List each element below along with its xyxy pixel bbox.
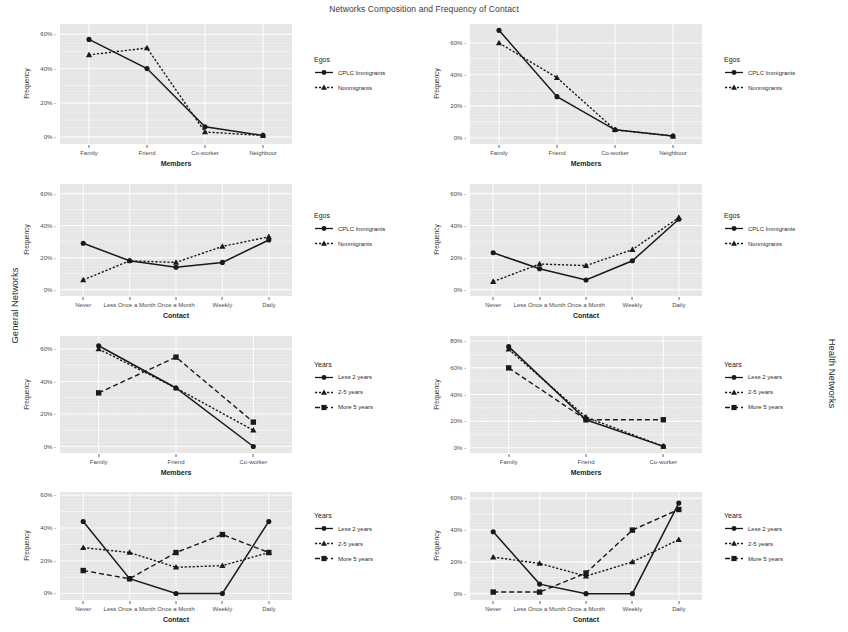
panel-p4: 0% -20% -40% -60% -NeverLess Once a Mont… xyxy=(424,176,834,326)
legend-item-label: 2-5 years xyxy=(748,541,773,547)
legend-item[interactable]: 2-5 years xyxy=(724,388,783,397)
x-tick-mark xyxy=(129,297,130,300)
plot-area-p7 xyxy=(60,492,292,600)
x-tick-label: Less Once a Month xyxy=(514,302,566,308)
y-axis-title: Frequency xyxy=(23,492,30,600)
plot-area-p6 xyxy=(470,336,702,453)
legend-item[interactable]: 2-5 years xyxy=(724,539,783,548)
data-point xyxy=(491,250,496,255)
legend-item-label: 2-5 years xyxy=(338,541,363,547)
legend-item-label: CPLC Immigrants xyxy=(338,70,385,76)
legend-title: Egos xyxy=(724,212,795,219)
legend-item[interactable]: CPLC Immigrants xyxy=(724,68,795,77)
panel-p3: 0% -20% -40% -60% -NeverLess Once a Mont… xyxy=(14,176,424,326)
circle-marker-icon xyxy=(314,68,334,77)
data-point xyxy=(81,241,86,246)
legend-item-label: Less 2 years xyxy=(338,526,372,532)
x-axis-title: Contact xyxy=(470,312,702,319)
legend-item[interactable]: Nonmigrants xyxy=(724,239,795,248)
x-tick-label: Once a Month xyxy=(157,302,195,308)
y-tick-label: 60% - xyxy=(424,495,466,501)
x-tick-label: Friend xyxy=(167,459,184,465)
legend-item[interactable]: Less 2 years xyxy=(724,373,783,382)
square-marker-icon xyxy=(724,403,744,412)
data-point xyxy=(537,582,542,587)
legend-item-label: More 5 years xyxy=(338,404,373,410)
legend-item[interactable]: 2-5 years xyxy=(314,539,373,548)
y-tick-label: 20% - xyxy=(424,103,466,109)
circle-marker-icon xyxy=(314,224,334,233)
legend-egos-p4: EgosCPLC ImmigrantsNonmigrants xyxy=(724,212,795,254)
plot-area-p2 xyxy=(470,24,702,144)
x-tick-label: Co-worker xyxy=(601,150,629,156)
triangle-marker-icon xyxy=(314,539,334,548)
x-tick-mark xyxy=(98,454,99,457)
data-point xyxy=(676,501,681,506)
plot-area-p3 xyxy=(60,184,292,296)
x-tick-mark xyxy=(673,145,674,148)
x-tick-label: Weekly xyxy=(623,606,643,612)
data-point xyxy=(266,234,272,240)
x-tick-label: Less Once a Month xyxy=(104,302,156,308)
legend-item[interactable]: Less 2 years xyxy=(314,524,373,533)
legend-item[interactable]: CPLC Immigrants xyxy=(314,68,385,77)
x-tick-mark xyxy=(268,601,269,604)
legend-title: Years xyxy=(314,512,373,519)
y-axis-title: Frequency xyxy=(433,336,440,453)
legend-item[interactable]: CPLC Immigrants xyxy=(724,224,795,233)
data-point xyxy=(630,591,635,596)
data-point xyxy=(537,589,542,594)
y-tick-label: 20% - xyxy=(424,418,466,424)
panel-p1: 0% -20% -40% -60% -FamilyFriendCo-worker… xyxy=(14,16,424,174)
x-tick-mark xyxy=(586,601,587,604)
x-tick-label: Friend xyxy=(548,150,565,156)
legend-item-label: Less 2 years xyxy=(748,374,782,380)
y-axis-title: Frequency xyxy=(23,184,30,296)
legend-item[interactable]: Less 2 years xyxy=(724,524,783,533)
legend-item[interactable]: More 5 years xyxy=(314,554,373,563)
legend-item[interactable]: 2-5 years xyxy=(314,388,373,397)
x-tick-label: Co-worker xyxy=(649,459,677,465)
x-tick-label: Once a Month xyxy=(567,606,605,612)
legend-egos-p1: EgosCPLC ImmigrantsNonmigrants xyxy=(314,56,385,98)
x-tick-label: Weekly xyxy=(213,606,233,612)
x-tick-mark xyxy=(493,297,494,300)
y-tick-label: 20% - xyxy=(424,255,466,261)
panel-p2: 0% -20% -40% -60% -FamilyFriendCo-worker… xyxy=(424,16,834,174)
square-marker-icon xyxy=(314,403,334,412)
legend-item[interactable]: Nonmigrants xyxy=(724,83,795,92)
x-tick-label: Never xyxy=(75,606,91,612)
plot-area-p8 xyxy=(470,492,702,600)
legend-item[interactable]: More 5 years xyxy=(724,554,783,563)
legend-item[interactable]: Nonmigrants xyxy=(314,83,385,92)
y-axis-title: Frequency xyxy=(433,184,440,296)
triangle-marker-icon xyxy=(724,539,744,548)
legend-item-label: CPLC Immigrants xyxy=(748,226,795,232)
circle-marker-icon xyxy=(724,68,744,77)
legend-item[interactable]: More 5 years xyxy=(314,403,373,412)
data-point xyxy=(127,576,132,581)
x-tick-label: Family xyxy=(90,459,108,465)
x-tick-mark xyxy=(253,454,254,457)
data-point xyxy=(583,570,588,575)
legend-item[interactable]: Nonmigrants xyxy=(314,239,385,248)
legend-item[interactable]: Less 2 years xyxy=(314,373,373,382)
circle-marker-icon xyxy=(724,373,744,382)
panel-p5: 0% -20% -40% -60% -FamilyFriendCo-worker… xyxy=(14,328,424,483)
x-tick-label: Less Once a Month xyxy=(514,606,566,612)
x-axis-title: Contact xyxy=(60,312,292,319)
legend-years-p6: YearsLess 2 years2-5 yearsMore 5 years xyxy=(724,361,783,418)
x-tick-label: Less Once a Month xyxy=(104,606,156,612)
x-tick-mark xyxy=(499,145,500,148)
square-marker-icon xyxy=(314,554,334,563)
legend-item-label: Nonmigrants xyxy=(748,241,782,247)
data-point xyxy=(173,354,178,359)
legend-item-label: More 5 years xyxy=(748,556,783,562)
legend-item[interactable]: More 5 years xyxy=(724,403,783,412)
x-tick-mark xyxy=(678,297,679,300)
legend-item[interactable]: CPLC Immigrants xyxy=(314,224,385,233)
data-point xyxy=(173,550,178,555)
x-tick-label: Daily xyxy=(672,606,685,612)
x-tick-label: Weekly xyxy=(623,302,643,308)
legend-title: Egos xyxy=(724,56,795,63)
